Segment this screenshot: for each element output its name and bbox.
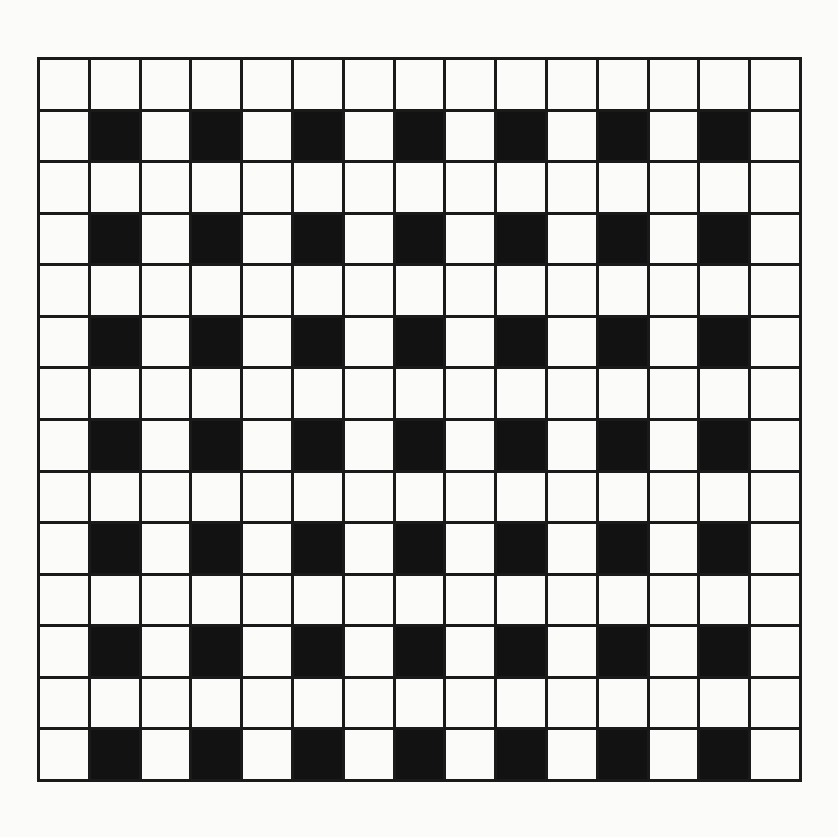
grid-cell bbox=[446, 318, 494, 367]
grid-cell bbox=[294, 473, 342, 522]
grid-cell bbox=[751, 576, 799, 625]
grid-cell bbox=[446, 112, 494, 161]
grid-cell bbox=[40, 112, 88, 161]
grid-cell bbox=[142, 421, 190, 470]
grid-cell bbox=[294, 576, 342, 625]
grid-cell bbox=[497, 60, 545, 109]
grid-cell bbox=[345, 112, 393, 161]
grid-cell bbox=[243, 730, 291, 779]
grid-cell bbox=[40, 473, 88, 522]
grid-cell bbox=[650, 524, 698, 573]
grid-cell bbox=[446, 524, 494, 573]
grid-cell bbox=[751, 627, 799, 676]
grid-cell bbox=[396, 112, 444, 161]
grid-cell bbox=[294, 627, 342, 676]
grid-cell bbox=[700, 163, 748, 212]
grid-cell bbox=[446, 730, 494, 779]
grid-cell bbox=[650, 576, 698, 625]
grid-cell bbox=[650, 266, 698, 315]
grid-cell bbox=[396, 318, 444, 367]
grid-cell bbox=[345, 679, 393, 728]
grid-cell bbox=[497, 369, 545, 418]
grid-cell bbox=[497, 215, 545, 264]
grid-cell bbox=[192, 369, 240, 418]
grid-cell bbox=[446, 369, 494, 418]
grid-cell bbox=[446, 215, 494, 264]
grid-cell bbox=[345, 421, 393, 470]
grid-cell bbox=[142, 679, 190, 728]
grid-cell bbox=[446, 60, 494, 109]
grid-cell bbox=[497, 421, 545, 470]
grid-cell bbox=[548, 163, 596, 212]
grid-cell bbox=[599, 421, 647, 470]
grid-cell bbox=[243, 60, 291, 109]
grid-cell bbox=[294, 524, 342, 573]
grid-cell bbox=[446, 163, 494, 212]
grid-cell bbox=[548, 421, 596, 470]
grid-cell bbox=[40, 163, 88, 212]
grid-cell bbox=[345, 730, 393, 779]
grid-cell bbox=[548, 679, 596, 728]
grid-cell bbox=[243, 473, 291, 522]
grid-cell bbox=[345, 266, 393, 315]
grid-cell bbox=[548, 369, 596, 418]
grid-cell bbox=[345, 576, 393, 625]
grid-cell bbox=[700, 60, 748, 109]
grid-cell bbox=[548, 266, 596, 315]
grid-cell bbox=[396, 369, 444, 418]
grid-cell bbox=[142, 215, 190, 264]
grid-cell bbox=[751, 730, 799, 779]
grid-cell bbox=[243, 266, 291, 315]
grid-cell bbox=[548, 524, 596, 573]
grid-cell bbox=[91, 679, 139, 728]
grid-cell bbox=[700, 576, 748, 625]
grid-cell bbox=[91, 524, 139, 573]
grid-cell bbox=[192, 730, 240, 779]
grid-cell bbox=[294, 730, 342, 779]
grid-cell bbox=[192, 576, 240, 625]
grid-cell bbox=[243, 421, 291, 470]
grid-cell bbox=[40, 421, 88, 470]
grid-cell bbox=[91, 112, 139, 161]
grid-cell bbox=[345, 60, 393, 109]
grid-cell bbox=[243, 112, 291, 161]
grid-cell bbox=[650, 627, 698, 676]
grid-cell bbox=[40, 679, 88, 728]
grid-cell bbox=[700, 679, 748, 728]
grid-cell bbox=[599, 679, 647, 728]
grid-cell bbox=[345, 473, 393, 522]
grid-cell bbox=[192, 421, 240, 470]
grid-cell bbox=[396, 473, 444, 522]
grid-cell bbox=[650, 215, 698, 264]
grid-cell bbox=[243, 215, 291, 264]
grid-cell bbox=[650, 369, 698, 418]
grid-cell bbox=[40, 730, 88, 779]
grid-cell bbox=[294, 215, 342, 264]
grid-cell bbox=[599, 524, 647, 573]
grid-cell bbox=[650, 318, 698, 367]
grid-cell bbox=[700, 112, 748, 161]
grid-cell bbox=[497, 112, 545, 161]
grid-cell bbox=[396, 60, 444, 109]
grid-cell bbox=[142, 318, 190, 367]
grid-cell bbox=[700, 266, 748, 315]
grid-cell bbox=[548, 627, 596, 676]
grid-cell bbox=[142, 576, 190, 625]
grid-cell bbox=[243, 524, 291, 573]
grid-cell bbox=[243, 576, 291, 625]
grid-cell bbox=[243, 679, 291, 728]
grid-cell bbox=[91, 369, 139, 418]
grid-cell bbox=[497, 576, 545, 625]
grid-cell bbox=[142, 473, 190, 522]
grid-cell bbox=[396, 215, 444, 264]
grid-cell bbox=[142, 730, 190, 779]
grid-cell bbox=[294, 266, 342, 315]
grid-cell bbox=[700, 215, 748, 264]
grid-cell bbox=[40, 369, 88, 418]
grid-cell bbox=[751, 112, 799, 161]
grid-cell bbox=[243, 163, 291, 212]
grid-cell bbox=[40, 215, 88, 264]
grid-cell bbox=[751, 473, 799, 522]
grid-cell bbox=[396, 163, 444, 212]
grid-cell bbox=[396, 576, 444, 625]
